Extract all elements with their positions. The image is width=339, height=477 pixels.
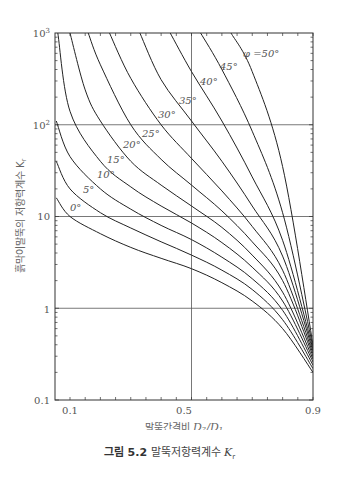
y-tick-1: 1: [44, 304, 50, 315]
curve-label-0deg: 0°: [70, 202, 81, 213]
curve-label-45deg: 45°: [219, 61, 238, 72]
figure-number: 그림 5.2: [104, 446, 147, 459]
caption-symbol-sub: r: [232, 453, 235, 461]
curve-label-35deg: 35°: [179, 95, 197, 106]
y-axis-label: 흙막이말뚝의 저항력계수 Kr: [14, 158, 28, 273]
curve-labels: 0°5°10°15°20°25°30°35°40°45°φ =50°: [70, 48, 279, 213]
x-tick-0-9: 0.9: [305, 405, 321, 416]
curve-35deg: [140, 33, 313, 351]
y-tick-1000: 103: [33, 27, 50, 39]
curve-label-30deg: 30°: [158, 109, 176, 120]
curve-label-50deg: φ =50°: [243, 48, 279, 59]
chart: 0°5°10°15°20°25°30°35°40°45°φ =50° 103 1…: [0, 0, 339, 430]
curve-label-20deg: 20°: [122, 139, 141, 150]
curve-5deg: [56, 161, 313, 368]
y-tick-10: 10: [37, 211, 50, 222]
curves: [56, 33, 313, 372]
curve-label-5deg: 5°: [83, 184, 94, 195]
curve-label-25deg: 25°: [141, 128, 160, 139]
curve-label-40deg: 40°: [199, 76, 218, 87]
curve-label-10deg: 10°: [97, 169, 115, 180]
x-tick-0-5: 0.5: [176, 405, 192, 416]
caption-text: 말뚝저항력계수: [147, 446, 224, 459]
figure-caption: 그림 5.2 말뚝저항력계수 Kr: [0, 443, 339, 461]
curve-label-15deg: 15°: [107, 154, 125, 165]
gridlines: [55, 33, 313, 400]
curve-10deg: [56, 121, 313, 365]
curve-15deg: [58, 33, 313, 362]
x-tick-0-1: 0.1: [62, 405, 78, 416]
x-axis-label: 말뚝간격비 D₂/D₁: [145, 421, 223, 430]
y-tick-100: 102: [33, 119, 50, 131]
curve-0deg: [56, 198, 313, 373]
y-tick-0-1: 0.1: [34, 395, 50, 406]
